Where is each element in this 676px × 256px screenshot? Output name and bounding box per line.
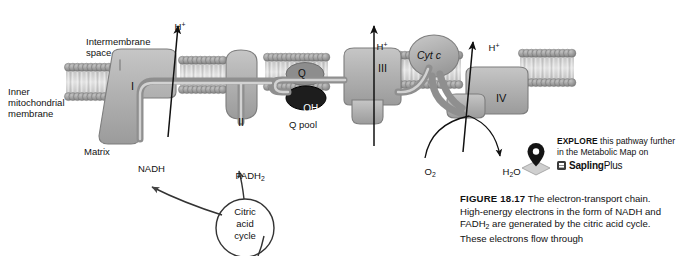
saplingplus-logo[interactable]: SaplingPlus xyxy=(557,160,676,171)
explore-line-1: EXPLORE this pathway further xyxy=(557,136,676,147)
oxygen-label: O2 xyxy=(414,155,436,191)
figure-caption: FIGURE 18.17 The electron-transport chai… xyxy=(460,193,676,246)
cyt-c-label: Cyt c xyxy=(417,50,441,61)
saplingplus-wordmark: SaplingPlus xyxy=(569,160,622,171)
h-plus-label-3: H+ xyxy=(478,29,499,64)
qh2-label: QH2 xyxy=(292,92,322,128)
q-label: Q xyxy=(298,68,306,79)
complex-ii-label: II xyxy=(238,117,244,128)
label-matrix: Matrix xyxy=(84,146,110,157)
explore-callout: EXPLORE this pathway further in the Meta… xyxy=(557,136,676,171)
explore-line-2: in the Metabolic Map on xyxy=(557,147,676,158)
saplingplus-mark-icon xyxy=(557,161,566,170)
label-inner-mitochondrial-membrane: Inner mitochondrial membrane xyxy=(8,86,65,119)
complex-i-label: I xyxy=(131,81,134,92)
label-intermembrane-space: Intermembrane space xyxy=(86,36,150,58)
map-pin-icon xyxy=(522,143,550,175)
arrow-to-nadh xyxy=(152,187,222,215)
water-label: H2O xyxy=(492,155,521,191)
figure-number: FIGURE 18.17 xyxy=(460,193,525,204)
complex-iii-label: III xyxy=(378,63,387,74)
caption-body-continued: are generated by the citric acid cycle. … xyxy=(460,218,650,244)
explore-keyword: EXPLORE xyxy=(557,136,598,146)
fadh2-label: FADH2 xyxy=(225,159,265,195)
citric-acid-cycle-label: Citric acid cycle xyxy=(228,206,262,242)
complex-iv-label: IV xyxy=(496,93,506,104)
nadh-label: NADH xyxy=(138,163,165,174)
explore-text-1: this pathway further xyxy=(598,136,675,146)
figure-electron-transport-chain: Intermembrane space Inner mitochondrial … xyxy=(0,0,676,256)
h-plus-label-1: H+ xyxy=(164,8,185,43)
h-plus-label-2: H+ xyxy=(366,28,387,63)
